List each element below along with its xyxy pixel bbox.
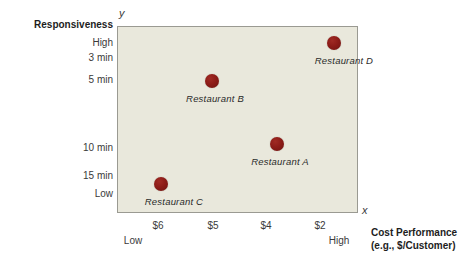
data-point-3[interactable]	[270, 137, 284, 151]
plot-points-layer: Restaurant DRestaurant BRestaurant ARest…	[118, 27, 357, 212]
x-axis-tick-2: $4	[260, 220, 271, 231]
y-axis-low-label: Low	[95, 188, 113, 199]
data-point-2[interactable]	[205, 74, 219, 88]
scatter-chart-figure: y x Responsiveness High3 min5 min10 min1…	[0, 0, 475, 269]
y-axis-title: Responsiveness	[34, 19, 113, 30]
y-axis-letter: y	[119, 7, 125, 19]
data-point-label-2: Restaurant B	[186, 93, 244, 104]
data-point-4[interactable]	[154, 177, 168, 191]
x-axis-tick-1: $5	[207, 220, 218, 231]
x-axis-title-sub: (e.g., $/Customer)	[371, 239, 457, 252]
x-axis-title: Cost Performance (e.g., $/Customer)	[371, 226, 457, 252]
data-point-label-1: Restaurant D	[315, 55, 373, 66]
x-axis-title-main: Cost Performance	[371, 226, 457, 239]
x-axis-tick-0: $6	[152, 220, 163, 231]
x-axis-high-label: High	[329, 235, 350, 246]
y-axis-tick-3: 15 min	[83, 170, 113, 181]
x-axis-tick-3: $2	[314, 220, 325, 231]
y-axis-tick-0: 3 min	[89, 52, 113, 63]
plot-area: Restaurant DRestaurant BRestaurant ARest…	[117, 26, 358, 213]
data-point-label-4: Restaurant C	[145, 196, 203, 207]
x-axis-letter: x	[362, 204, 368, 216]
y-axis-tick-1: 5 min	[89, 74, 113, 85]
data-point-1[interactable]	[327, 36, 341, 50]
data-point-label-3: Restaurant A	[251, 156, 309, 167]
y-axis-high-label: High	[92, 37, 113, 48]
y-axis-tick-2: 10 min	[83, 142, 113, 153]
x-axis-low-label: Low	[124, 235, 142, 246]
